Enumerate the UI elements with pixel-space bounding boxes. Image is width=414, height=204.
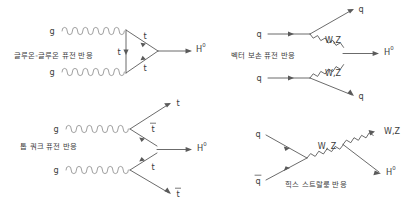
diagram-higgs-strahlung: q q W, Z W,Z H0 <box>255 127 401 186</box>
arrow-antitop-out-lower <box>164 187 171 194</box>
particle-label-antiquark-hst: q <box>255 175 262 185</box>
top-loop-lower-edge <box>126 51 158 73</box>
boson-label-wz-upper: W,Z <box>325 36 341 45</box>
particle-label-higgs-ggf: H0 <box>196 42 206 53</box>
arrow-quark-out-upper <box>347 9 354 14</box>
svg-text:t: t <box>176 189 180 199</box>
particle-label-gluon-upper: g <box>49 26 54 36</box>
particle-label-quark-out-upper: q <box>358 4 363 14</box>
arrow-higgs-hst <box>373 171 381 176</box>
particle-label-higgs-ttf: H0 <box>197 141 207 152</box>
arrow-top-lower <box>141 56 147 60</box>
particle-label-top-lower: t <box>143 63 147 73</box>
particle-label-higgs-vbf: H0 <box>384 45 394 56</box>
arrow-quark-in-upper <box>288 32 294 37</box>
arrow-higgs-ttf <box>186 147 192 152</box>
particle-label-top-out-upper: t <box>176 98 180 108</box>
arrow-quark-out-lower <box>347 89 354 96</box>
gluon-coil-lower-ttf <box>66 166 128 173</box>
arrow-higgs <box>186 49 193 54</box>
arrow-antiquark-in-hst <box>284 166 290 171</box>
arrow-top-upper <box>141 43 147 47</box>
particle-label-quark-in-lower: q <box>256 73 261 83</box>
wz-wave-out <box>343 133 373 145</box>
feynman-diagram-figure: g g t t t H0 q <box>0 0 414 204</box>
boson-label-wz-out: W,Z <box>384 127 400 136</box>
top-out-upper <box>130 104 169 129</box>
gluon-coil-upper-ttf <box>66 125 128 132</box>
caption-top-quark-fusion: 톱 쿼크 퓨전 반응 <box>20 143 77 150</box>
particle-label-top-upper: t <box>143 31 147 41</box>
particle-label-top-internal: t <box>117 47 121 57</box>
caption-higgs-strahlung: 힉스 스트랄룽 반응 <box>285 181 347 188</box>
caption-vector-boson-fusion: 벡터 보손 퓨전 반응 <box>231 52 295 59</box>
arrow-quark-in-lower <box>288 76 294 81</box>
higgs-line-hst <box>343 145 379 173</box>
boson-label-wz-schannel: W, Z <box>318 142 337 151</box>
particle-label-antitop-internal: t <box>150 123 156 133</box>
arrow-top-left <box>123 50 128 55</box>
gluon-coil-lower <box>62 68 124 75</box>
quark-out-lower <box>310 78 352 95</box>
diagram-canvas: g g t t t H0 q <box>0 0 414 204</box>
svg-text:q: q <box>255 176 260 186</box>
caption-gluon-gluon-fusion: 글루온-글루온 퓨전 반응 <box>14 52 93 59</box>
antitop-out-lower <box>130 170 169 193</box>
particle-label-higgs-hst: H0 <box>386 165 396 176</box>
particle-label-gluon-lower: g <box>49 67 54 77</box>
gluon-coil-upper <box>62 27 124 34</box>
arrow-higgs-vbf <box>373 51 379 56</box>
particle-label-antitop-out-lower: t <box>175 188 181 198</box>
svg-text:t: t <box>151 124 155 134</box>
particle-label-quark-in-upper: q <box>256 29 261 39</box>
top-loop-upper-edge <box>126 30 158 51</box>
particle-label-top-internal-ttf: t <box>151 162 155 172</box>
quark-out-upper <box>310 10 352 34</box>
quark-in-hst <box>266 135 307 158</box>
boson-label-wz-lower: W,Z <box>325 69 341 78</box>
particle-label-quark-out-lower: q <box>358 91 363 101</box>
particle-label-gluon-upper-ttf: g <box>53 124 58 134</box>
particle-label-quark-hst: q <box>255 129 260 139</box>
particle-label-gluon-lower-ttf: g <box>53 165 58 175</box>
